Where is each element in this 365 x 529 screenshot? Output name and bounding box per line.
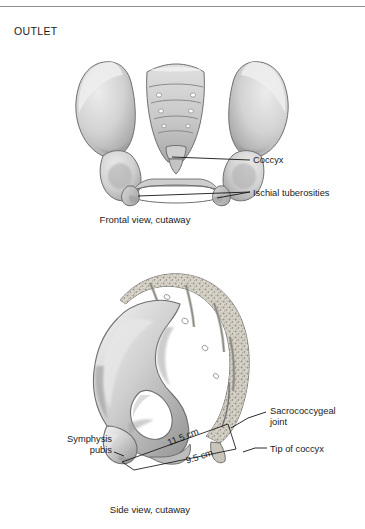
leader-tip-of-coccyx <box>243 448 267 452</box>
frontal-pelvis-figure <box>76 62 288 206</box>
label-coccyx: Coccyx <box>253 155 283 166</box>
illustration-page: OUTLET <box>0 0 365 529</box>
caption-side-view: Side view, cutaway <box>0 504 300 515</box>
ilium-left <box>76 62 141 201</box>
coccyx-frontal <box>166 146 186 175</box>
caption-frontal-view: Frontal view, cutaway <box>0 214 290 225</box>
label-sacrococcygeal-joint: Sacrococcygeal joint <box>270 406 365 429</box>
label-tip-of-coccyx: Tip of coccyx <box>270 444 324 455</box>
label-symphysis-pubis: Symphysis pubis <box>34 434 112 457</box>
ilium-right <box>223 62 288 201</box>
label-ischial-tuberosities: Ischial tuberosities <box>253 188 329 199</box>
